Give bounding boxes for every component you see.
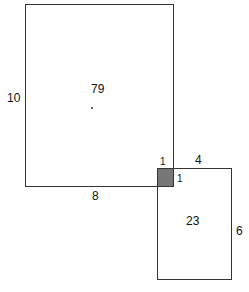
overlap-square [157, 168, 174, 187]
small-width-label: 4 [195, 154, 202, 166]
large-width-label: 8 [92, 190, 99, 202]
small-height-label: 6 [236, 225, 243, 237]
small-area-label: 23 [186, 215, 199, 227]
overlap-width-label: 1 [160, 156, 166, 168]
overlap-height-label: 1 [177, 173, 183, 185]
large-height-label: 10 [7, 92, 20, 104]
center-dot [91, 107, 93, 109]
large-area-label: 79 [91, 83, 104, 95]
